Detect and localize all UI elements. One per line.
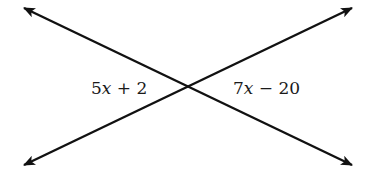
angle-left-coefficient: 5	[91, 78, 102, 98]
angle-left-operator: +	[111, 78, 136, 98]
angle-left-constant: 2	[136, 78, 147, 98]
angle-right-variable: x	[244, 78, 254, 98]
angle-label-left: 5x + 2	[91, 80, 147, 97]
angle-right-constant: 20	[278, 78, 300, 98]
angle-right-coefficient: 7	[233, 78, 244, 98]
intersecting-lines-diagram	[0, 0, 367, 176]
angle-label-right: 7x − 20	[233, 80, 300, 97]
angle-left-variable: x	[102, 78, 112, 98]
angle-right-operator: −	[253, 78, 278, 98]
